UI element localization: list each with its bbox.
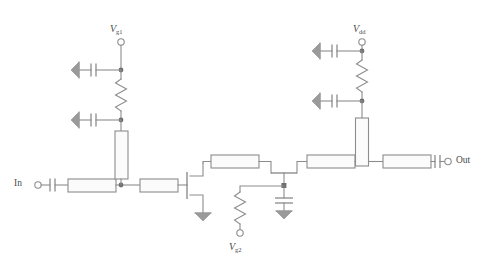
tl-gate1-stub — [115, 131, 128, 179]
ground-cap-gate2 — [276, 211, 292, 219]
vdd-label: Vdd — [353, 24, 366, 34]
out-terminal[interactable] — [445, 158, 451, 164]
gate1-bias-network — [71, 39, 128, 185]
tl-gate1-series — [140, 179, 178, 192]
vdd-terminal[interactable] — [359, 39, 365, 45]
cap-vdd-bypass-lower — [332, 95, 337, 108]
vg2-terminal[interactable] — [237, 230, 243, 236]
tl-output-series — [383, 155, 431, 168]
cap-vdd-bypass-upper — [332, 45, 337, 58]
resistor-drain-bias — [357, 51, 368, 101]
circuit-schematic-svg — [0, 0, 490, 275]
in-terminal[interactable] — [35, 182, 41, 188]
vg1-terminal[interactable] — [118, 39, 124, 45]
schematic-canvas: In Out Vg1 Vg2 Vdd — [0, 0, 490, 275]
res-zigzag — [235, 192, 246, 224]
ground-q1-source — [195, 213, 211, 221]
transistor-q2 — [271, 162, 307, 187]
cap-input-dc-block — [50, 179, 55, 192]
ground-cap-vdd-upper — [312, 43, 320, 59]
tl-interstage-2 — [307, 155, 355, 168]
vg2-label-sub: g2 — [235, 246, 242, 253]
res-zigzag — [357, 60, 368, 92]
q1-drain-lead — [190, 163, 203, 176]
cap-output-dc-block — [435, 155, 440, 168]
vdd-label-sub: dd — [359, 28, 366, 35]
ground-cap-vg1-upper — [71, 62, 79, 78]
output-branch — [383, 155, 451, 168]
gnd-triangle — [195, 213, 211, 221]
wire-gate2-to-resistor — [240, 186, 284, 192]
output-label: Out — [456, 156, 470, 166]
stage2 — [235, 162, 308, 237]
vg1-label-sub: g1 — [116, 28, 123, 35]
vdd-bias-network — [307, 39, 383, 168]
vg1-label: Vg1 — [110, 24, 123, 34]
ground-cap-vg1-lower — [71, 112, 79, 128]
tl-input-series — [68, 179, 116, 192]
resistor-gate1-bias — [116, 70, 127, 120]
cap-vg1-bypass-lower — [91, 114, 96, 127]
wire-tl1-to-q2-source — [259, 162, 271, 174]
cap-gate2-bypass — [275, 188, 293, 211]
transistor-q1 — [187, 163, 203, 213]
input-label: In — [14, 179, 22, 189]
cap-vg1-bypass-upper — [91, 64, 96, 77]
q1-source-lead — [190, 195, 203, 213]
tl-interstage-1 — [211, 155, 259, 168]
gnd-triangle — [276, 211, 292, 219]
resistor-gate2-bias — [235, 192, 246, 230]
q2-drain-lead — [297, 162, 307, 174]
gnd-triangle — [312, 43, 320, 59]
wire-q1-drain-to-tl — [203, 162, 211, 164]
gnd-triangle — [312, 93, 320, 109]
res-zigzag — [116, 79, 127, 111]
gnd-triangle — [71, 62, 79, 78]
vg2-label: Vg2 — [229, 242, 242, 252]
tl-drain-stub — [356, 118, 369, 166]
gnd-triangle — [71, 112, 79, 128]
ground-cap-vdd-lower — [312, 93, 320, 109]
input-branch — [35, 179, 140, 193]
